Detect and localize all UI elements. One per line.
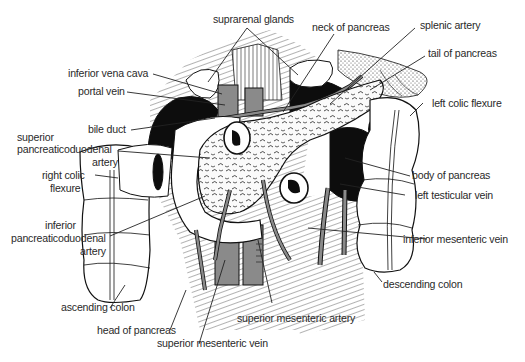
label-ascending-colon: ascending colon <box>61 301 135 313</box>
label-splenic-artery: splenic artery <box>420 19 480 31</box>
label-suprarenal-glands: suprarenal glands <box>213 13 294 25</box>
label-right-colic-flexure-line2: flexure <box>50 182 80 194</box>
inferior-vena-cava <box>218 85 238 117</box>
label-superior-pd-artery-line1: superior <box>17 131 54 143</box>
label-neck-of-pancreas: neck of pancreas <box>312 21 390 33</box>
anatomy-diagram: suprarenal glands neck of pancreas splen… <box>0 0 525 362</box>
label-superior-mesenteric-vein: superior mesenteric vein <box>157 337 268 349</box>
label-body-of-pancreas: body of pancreas <box>412 169 490 181</box>
label-inferior-pd-artery-line3: artery <box>80 245 106 257</box>
label-inferior-pd-artery-line1: inferior <box>45 219 76 231</box>
label-inferior-vena-cava: inferior vena cava <box>68 67 148 79</box>
label-inferior-pd-artery-line2: pancreaticoduodenal <box>11 232 106 244</box>
right-colic-flexure <box>118 144 172 197</box>
label-inferior-mesenteric-vein: inferior mesenteric vein <box>403 233 508 245</box>
label-superior-pd-artery-line2: pancreaticoduodenal <box>17 143 112 155</box>
label-superior-pd-artery-line3: artery <box>92 156 118 168</box>
label-right-colic-flexure-line1: right colic <box>42 169 85 181</box>
label-superior-mesenteric-artery: superior mesenteric artery <box>237 312 355 324</box>
label-tail-of-pancreas: tail of pancreas <box>428 47 497 59</box>
label-left-colic-flexure: left colic flexure <box>432 97 502 109</box>
label-left-testicular-vein: left testicular vein <box>415 189 493 201</box>
label-bile-duct: bile duct <box>88 123 126 135</box>
label-head-of-pancreas: head of pancreas <box>97 324 176 336</box>
label-descending-colon: descending colon <box>383 278 462 290</box>
label-portal-vein: portal vein <box>78 85 125 97</box>
